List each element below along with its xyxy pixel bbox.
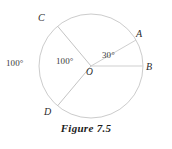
point-label-a: A xyxy=(136,29,142,39)
angle-label-aob: 30° xyxy=(102,51,115,60)
point-label-c: C xyxy=(38,13,45,23)
point-label-o-center: O xyxy=(86,68,93,78)
angle-label-cod: 100° xyxy=(56,57,74,66)
point-label-d: D xyxy=(44,107,51,117)
figure-container: C A B D O 100° 100° 30° Figure 7.5 xyxy=(0,0,172,149)
angle-label-outer-arc: 100° xyxy=(6,59,24,68)
figure-caption: Figure 7.5 xyxy=(0,122,172,134)
point-label-b: B xyxy=(146,62,152,72)
